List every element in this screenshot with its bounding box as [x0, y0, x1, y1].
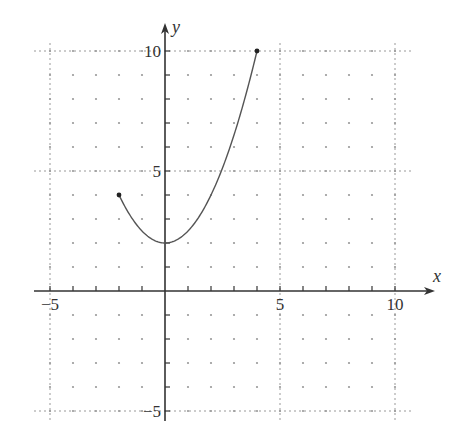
- grid-dot: [72, 50, 74, 52]
- grid-dot: [279, 194, 281, 196]
- grid-dot: [325, 218, 327, 220]
- x-tick-label: 10: [387, 295, 404, 314]
- grid-dot: [141, 386, 143, 388]
- grid-dot: [210, 242, 212, 244]
- grid-dot: [72, 410, 74, 412]
- grid-dot: [302, 386, 304, 388]
- grid-dot: [210, 338, 212, 340]
- grid-dot: [348, 146, 350, 148]
- grid-dot: [141, 266, 143, 268]
- grid-dot: [49, 98, 51, 100]
- grid-dot: [256, 338, 258, 340]
- grid-dot: [348, 50, 350, 52]
- grid-dot: [95, 122, 97, 124]
- grid-dot: [187, 170, 189, 172]
- grid-dot: [49, 314, 51, 316]
- grid-dot: [210, 170, 212, 172]
- grid-dot: [325, 74, 327, 76]
- grid-dot: [95, 194, 97, 196]
- grid-dot: [233, 314, 235, 316]
- grid-dot: [325, 98, 327, 100]
- grid-dot: [371, 98, 373, 100]
- grid-dot: [72, 386, 74, 388]
- grid-dot: [118, 98, 120, 100]
- grid-dot: [279, 386, 281, 388]
- grid-dot: [187, 338, 189, 340]
- grid-dot: [256, 314, 258, 316]
- grid-dot: [141, 314, 143, 316]
- grid-dot: [233, 218, 235, 220]
- grid-dot: [233, 362, 235, 364]
- grid-dot: [49, 170, 51, 172]
- grid-dot: [49, 50, 51, 52]
- y-tick-label: 10: [144, 42, 161, 61]
- grid-dot: [394, 314, 396, 316]
- grid-dot: [141, 74, 143, 76]
- grid-dot: [256, 386, 258, 388]
- grid-dot: [371, 386, 373, 388]
- grid-dot: [256, 74, 258, 76]
- grid-dot: [49, 266, 51, 268]
- grid-dot: [325, 122, 327, 124]
- grid-dot: [72, 266, 74, 268]
- grid-dot: [49, 242, 51, 244]
- grid-dot: [141, 362, 143, 364]
- grid-dot: [118, 338, 120, 340]
- grid-dot: [210, 386, 212, 388]
- grid-dot: [302, 50, 304, 52]
- grid-dot: [348, 98, 350, 100]
- grid-dot: [233, 386, 235, 388]
- grid-dot: [302, 146, 304, 148]
- grid-dot: [141, 338, 143, 340]
- grid-dot: [279, 50, 281, 52]
- grid-dot: [256, 410, 258, 412]
- grid-dot: [118, 362, 120, 364]
- grid-dot: [72, 170, 74, 172]
- grid-dot: [256, 266, 258, 268]
- grid-dot: [233, 122, 235, 124]
- grid-dot: [95, 314, 97, 316]
- grid-dot: [371, 170, 373, 172]
- y-tick-label: 5: [153, 162, 162, 181]
- grid-dot: [279, 98, 281, 100]
- grid-dot: [325, 266, 327, 268]
- grid-dot: [302, 218, 304, 220]
- grid-dot: [49, 362, 51, 364]
- grid-dot: [279, 314, 281, 316]
- grid-dot: [302, 266, 304, 268]
- grid-dot: [233, 410, 235, 412]
- grid-dot: [187, 266, 189, 268]
- x-tick-label: −5: [41, 295, 59, 314]
- grid-dot: [210, 314, 212, 316]
- grid-dot: [210, 218, 212, 220]
- grid-dot: [302, 122, 304, 124]
- grid-dot: [49, 410, 51, 412]
- grid-dot: [49, 74, 51, 76]
- y-axis-label: y: [170, 17, 180, 37]
- grid-dot: [302, 362, 304, 364]
- grid-dot: [256, 242, 258, 244]
- grid-dot: [95, 218, 97, 220]
- grid-dot: [187, 122, 189, 124]
- grid-dot: [348, 266, 350, 268]
- grid-dot: [141, 194, 143, 196]
- grid-dot: [394, 194, 396, 196]
- grid-dot: [348, 362, 350, 364]
- grid-dot: [187, 194, 189, 196]
- grid-dot: [394, 74, 396, 76]
- grid-dot: [95, 242, 97, 244]
- grid-dot: [210, 410, 212, 412]
- grid-dot: [118, 410, 120, 412]
- grid-dot: [394, 122, 396, 124]
- grid-dot: [118, 242, 120, 244]
- grid-dot: [95, 50, 97, 52]
- grid-dot: [325, 194, 327, 196]
- grid-dot: [325, 170, 327, 172]
- grid-dot: [394, 362, 396, 364]
- grid-dot: [371, 218, 373, 220]
- grid-dot: [371, 266, 373, 268]
- grid-dot: [371, 410, 373, 412]
- grid-dot: [394, 170, 396, 172]
- grid-dot: [371, 314, 373, 316]
- grid-dot: [279, 410, 281, 412]
